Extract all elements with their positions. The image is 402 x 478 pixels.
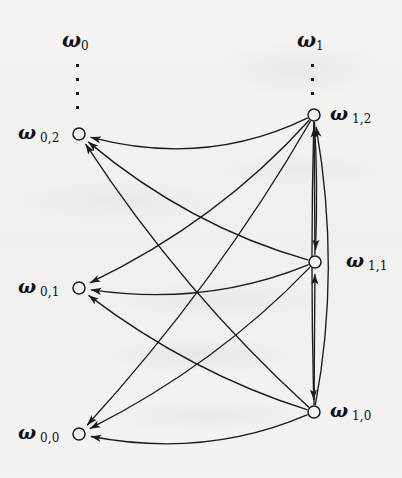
family-label-omega-1: ω1 xyxy=(297,30,324,52)
node-subscript: 1,0 xyxy=(352,409,372,423)
ellipsis-dot xyxy=(76,92,79,95)
node-symbol: ω xyxy=(18,421,36,443)
family-symbol: ω xyxy=(62,28,81,52)
edge-w12-to-w02 xyxy=(91,118,307,149)
node-symbol: ω xyxy=(346,249,364,271)
node-label-w11: ω 1,1 xyxy=(346,251,388,272)
ellipsis-dot xyxy=(76,78,79,81)
node-symbol: ω xyxy=(330,102,348,124)
vertical-ellipsis-omega-0 xyxy=(76,64,79,120)
node-circle-w12[interactable] xyxy=(308,109,320,121)
node-label-w02: ω 0,2 xyxy=(18,123,60,144)
node-symbol: ω xyxy=(18,121,36,143)
node-circle-w00[interactable] xyxy=(73,428,85,440)
family-subscript: 0 xyxy=(81,39,89,53)
node-symbol: ω xyxy=(18,275,36,297)
node-circle-w10[interactable] xyxy=(308,406,320,418)
node-label-w12: ω 1,2 xyxy=(330,104,372,125)
node-subscript: 1,1 xyxy=(368,259,388,273)
family-subscript: 1 xyxy=(316,39,324,53)
node-label-w01: ω 0,1 xyxy=(18,277,60,298)
node-circle-w02[interactable] xyxy=(73,128,85,140)
edge-w10-to-w00 xyxy=(91,415,307,444)
edge-group xyxy=(86,118,329,444)
node-subscript: 0,2 xyxy=(40,131,60,145)
ellipsis-dot xyxy=(76,64,79,67)
ellipsis-dot xyxy=(311,92,314,95)
node-label-w10: ω 1,0 xyxy=(330,401,372,422)
node-circle-w11[interactable] xyxy=(309,256,321,268)
family-symbol: ω xyxy=(297,28,316,52)
ellipsis-dot xyxy=(311,78,314,81)
node-symbol: ω xyxy=(330,399,348,421)
edge-w10-to-w02 xyxy=(86,144,309,406)
ellipsis-dot xyxy=(311,64,314,67)
family-label-omega-0: ω0 xyxy=(62,30,89,52)
edge-w10-to-w11 xyxy=(314,275,315,405)
edge-w10-to-w01 xyxy=(89,296,307,410)
node-subscript: 0,1 xyxy=(40,285,60,299)
ellipsis-dot xyxy=(76,106,79,109)
edge-w11-to-w00 xyxy=(90,267,310,428)
vertical-ellipsis-omega-1 xyxy=(311,64,314,106)
node-label-w00: ω 0,0 xyxy=(18,423,60,444)
edge-w11-to-w12 xyxy=(314,128,315,255)
node-circle-w01[interactable] xyxy=(73,282,85,294)
edge-w11-to-w01 xyxy=(91,265,308,295)
node-subscript: 0,0 xyxy=(40,431,60,445)
edge-w11-to-w02 xyxy=(89,142,308,260)
node-subscript: 1,2 xyxy=(352,112,372,126)
figure-canvas: ω0ω1 ω 0,2ω 0,1ω 0,0ω 1,2ω 1,1ω 1,0 xyxy=(0,0,402,478)
